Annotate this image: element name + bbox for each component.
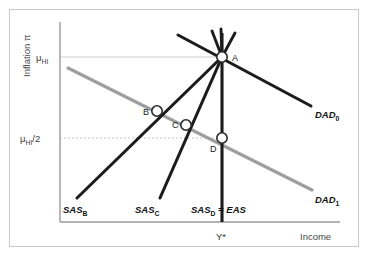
curve-label-sas-c-base: SAS bbox=[135, 204, 155, 215]
y-tick-mu-hi-sub: HI bbox=[41, 58, 48, 65]
point-d-marker bbox=[217, 133, 227, 143]
point-b-label: B bbox=[143, 107, 149, 117]
dad-sas-diagram: A B C D Inflation π μHI μHI/2 Y* Income … bbox=[0, 0, 368, 264]
y-axis-title: Inflation π bbox=[21, 34, 32, 77]
point-a-marker bbox=[217, 52, 227, 62]
point-c-marker bbox=[181, 120, 191, 130]
curve-label-dad0-sub: 0 bbox=[336, 115, 340, 122]
point-c-label: C bbox=[172, 120, 179, 130]
y-tick-mu-hi-half-suffix: /2 bbox=[32, 133, 40, 144]
point-b-marker bbox=[152, 106, 162, 116]
curve-label-sas-d-suffix: = EAS bbox=[215, 204, 246, 215]
curve-label-dad1-sub: 1 bbox=[336, 200, 340, 207]
curve-label-sas-d-eas: SASD = EAS bbox=[191, 204, 246, 217]
curve-label-sas-b-base: SAS bbox=[63, 204, 83, 215]
point-a-label: A bbox=[232, 53, 238, 63]
x-axis-title: Income bbox=[300, 231, 331, 242]
curve-label-dad1-base: DAD bbox=[315, 194, 336, 205]
curve-label-sas-c-sub: C bbox=[155, 210, 160, 217]
x-tick-y-star: Y* bbox=[216, 231, 226, 242]
curve-label-dad0-base: DAD bbox=[315, 109, 336, 120]
point-d-label: D bbox=[210, 144, 217, 154]
curve-label-sas-d-base: SAS bbox=[191, 204, 211, 215]
figure-container: A B C D Inflation π μHI μHI/2 Y* Income … bbox=[0, 0, 368, 264]
curve-label-sas-b-sub: B bbox=[83, 210, 88, 217]
